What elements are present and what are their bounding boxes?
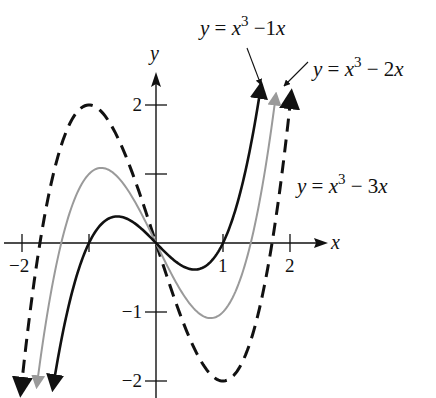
label-rest: −1	[249, 16, 277, 40]
x-tick-label: 2	[285, 255, 295, 276]
label-series-1: y = x3 −1x	[198, 13, 286, 40]
label-exp: 3	[241, 13, 249, 29]
label-series-3: y = x3 − 3x	[295, 171, 388, 198]
label-exp: 3	[338, 171, 346, 187]
label-series-2: y = x3 − 2x	[311, 54, 404, 81]
label-var: x	[377, 174, 388, 198]
x-tick-label: 1	[218, 255, 228, 276]
x-axis-arrow-icon	[314, 238, 328, 248]
label-var: x	[275, 16, 286, 40]
y-tick-label: 2	[133, 94, 143, 115]
label-rest: − 3	[346, 174, 379, 198]
series-line-1	[53, 84, 261, 388]
label-lhs: y	[311, 57, 323, 81]
y-tick-label: −1	[122, 301, 142, 322]
label-lhs: y	[295, 174, 307, 198]
cubic-family-chart: x y −2122−1−2 y = x3 −1x y = x3 − 2x y =…	[0, 0, 436, 398]
label-eq: =	[322, 57, 344, 81]
label-rest: − 2	[362, 57, 395, 81]
x-axis-label: x	[330, 231, 340, 253]
label-var: x	[393, 57, 404, 81]
label-lhs: y	[198, 16, 210, 40]
y-tick-label: −2	[122, 370, 142, 391]
label-exp: 3	[354, 54, 362, 70]
y-axis-label: y	[148, 42, 159, 65]
label-eq: =	[209, 16, 231, 40]
x-tick-label: −2	[9, 255, 29, 276]
annotations: y = x3 −1x y = x3 − 2x y = x3 − 3x	[198, 13, 404, 198]
axes: x y	[4, 42, 340, 398]
label-eq: =	[306, 174, 328, 198]
pointer-arrow-series-2	[284, 62, 308, 86]
pointer-arrow-series-1	[247, 48, 261, 85]
